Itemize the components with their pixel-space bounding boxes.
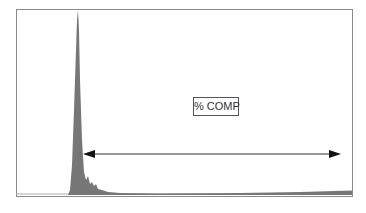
- arrowhead-right: [329, 150, 341, 158]
- percent-comp-label: % COMP: [193, 97, 239, 116]
- plot-frame: [17, 10, 353, 197]
- arrowhead-left: [83, 150, 95, 158]
- distribution-chart: [0, 0, 366, 213]
